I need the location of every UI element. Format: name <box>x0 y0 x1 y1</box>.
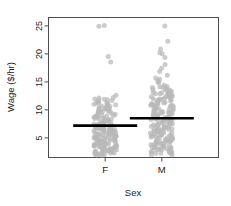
data-point <box>162 55 167 60</box>
data-point <box>157 69 162 74</box>
data-point <box>162 24 167 29</box>
y-tick-label: 20 <box>35 49 45 59</box>
data-point <box>92 102 97 107</box>
y-tick-label: 15 <box>35 77 45 87</box>
data-point <box>155 122 160 127</box>
data-point <box>161 130 166 135</box>
data-point <box>112 135 117 140</box>
y-axis-title: Wage ($/hr) <box>5 62 16 112</box>
data-point <box>149 124 154 129</box>
data-point <box>165 73 170 78</box>
data-point <box>158 151 163 156</box>
data-point <box>159 109 164 114</box>
data-point <box>108 151 113 156</box>
data-point <box>95 111 100 116</box>
data-point <box>164 146 169 151</box>
data-point <box>100 153 105 158</box>
data-point <box>162 96 167 101</box>
data-point <box>155 147 160 152</box>
data-point <box>157 84 162 89</box>
data-point <box>160 142 165 147</box>
data-point <box>149 152 154 157</box>
x-tick-label-m: M <box>158 164 166 175</box>
strip-chart: 510152025 FM Wage ($/hr) Sex <box>0 0 231 206</box>
data-point <box>164 119 169 124</box>
data-point <box>92 144 97 149</box>
data-point <box>155 129 160 134</box>
data-point <box>149 142 154 147</box>
data-point <box>109 98 114 103</box>
data-point <box>109 130 114 135</box>
y-tick-label: 10 <box>35 105 45 115</box>
data-point <box>102 23 107 28</box>
data-point <box>168 104 173 109</box>
data-point <box>149 94 154 99</box>
data-point <box>168 98 173 103</box>
data-point <box>157 96 162 101</box>
y-tick-label: 25 <box>35 21 45 31</box>
data-point <box>156 133 161 138</box>
y-tick-label: 5 <box>35 135 45 140</box>
data-point <box>167 111 172 116</box>
data-point <box>169 149 174 154</box>
data-point <box>113 102 118 107</box>
data-point <box>153 91 158 96</box>
data-point <box>163 125 168 130</box>
data-point <box>101 148 106 153</box>
data-point <box>151 133 156 138</box>
plot-frame <box>49 18 219 158</box>
data-point <box>158 91 163 96</box>
x-axis-title: Sex <box>125 187 142 198</box>
chart-root: 510152025 FM Wage ($/hr) Sex <box>0 0 231 206</box>
data-point <box>161 100 166 105</box>
data-point <box>106 54 111 59</box>
data-point <box>168 91 173 96</box>
data-point <box>155 137 160 142</box>
data-point <box>113 139 118 144</box>
x-tick-label-f: F <box>102 164 108 175</box>
data-point <box>108 59 113 64</box>
data-point <box>169 136 174 141</box>
data-point <box>163 62 168 67</box>
data-point <box>109 117 114 122</box>
data-point <box>96 24 101 29</box>
data-point <box>92 116 97 121</box>
data-point <box>103 105 108 110</box>
data-point <box>155 101 160 106</box>
data-point <box>165 39 170 44</box>
